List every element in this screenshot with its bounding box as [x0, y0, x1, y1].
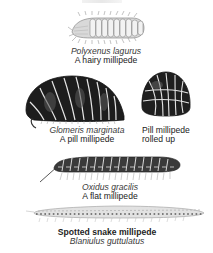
pill-millipede-illustration [22, 72, 128, 130]
polyxenus-caption: Polyxenus lagurus A hairy millipede [56, 47, 156, 66]
hairy-millipede-illustration [66, 10, 148, 46]
oxidus-caption: Oxidus gracilis A flat millipede [60, 183, 160, 202]
snake-millipede-illustration [24, 204, 208, 224]
polyxenus-common-name: A hairy millipede [56, 56, 156, 65]
cropped-caption-remnant [82, 0, 122, 3]
flat-millipede-illustration [38, 154, 184, 184]
rolled-pill-line2: rolled up [142, 135, 190, 144]
glomeris-caption: Glomeris marginata A pill millipede [40, 126, 134, 145]
glomeris-common-name: A pill millipede [40, 135, 134, 144]
blaniulus-caption: Spotted snake millipede Blaniulus guttul… [50, 228, 164, 247]
oxidus-common-name: A flat millipede [60, 192, 160, 201]
rolled-pill-millipede-illustration [139, 69, 193, 119]
blaniulus-scientific-name: Blaniulus guttulatus [50, 237, 164, 246]
rolled-pill-caption: Pill millipede rolled up [142, 126, 190, 145]
